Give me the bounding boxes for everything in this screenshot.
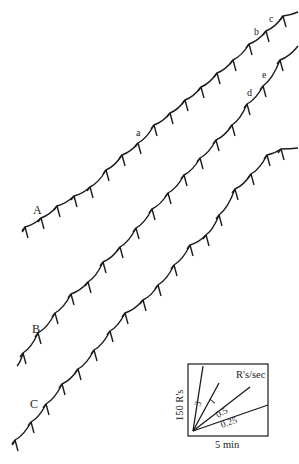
reinforcement-mark bbox=[138, 143, 141, 154]
reinforcement-mark bbox=[71, 294, 74, 305]
reinforcement-mark bbox=[184, 175, 187, 186]
reinforcement-mark bbox=[88, 282, 91, 293]
reinforcement-mark bbox=[174, 265, 177, 276]
reinforcement-mark bbox=[31, 422, 34, 433]
reinforcement-mark bbox=[267, 155, 270, 166]
reinforcement-mark bbox=[57, 206, 60, 217]
curve-annotation: b bbox=[254, 26, 259, 37]
reinforcement-mark-hook bbox=[117, 247, 120, 251]
reinforcement-mark bbox=[23, 353, 26, 364]
reinforcement-mark bbox=[46, 404, 49, 415]
rate-legend: R's/sec 5 min 150 R's 310.50.25 bbox=[174, 364, 268, 450]
reinforcement-mark bbox=[125, 313, 128, 324]
reinforcement-mark-hook bbox=[280, 16, 283, 20]
reinforcement-mark-hook bbox=[182, 100, 185, 104]
reinforcement-mark bbox=[25, 227, 28, 238]
reinforcement-mark bbox=[283, 16, 286, 27]
reinforcement-mark bbox=[232, 125, 235, 136]
reinforcement-mark bbox=[190, 245, 193, 256]
reinforcement-mark bbox=[251, 174, 254, 185]
reinforcement-mark bbox=[217, 73, 220, 84]
reinforcement-mark bbox=[170, 113, 173, 124]
reinforcement-mark bbox=[280, 60, 283, 71]
curve-annotation: e bbox=[262, 69, 267, 80]
rate-label: 1 bbox=[207, 396, 218, 406]
reinforcement-mark bbox=[90, 187, 93, 198]
reinforcement-mark-hook bbox=[214, 73, 217, 77]
reinforcement-mark bbox=[120, 247, 123, 258]
reinforcement-mark bbox=[136, 228, 139, 239]
legend-y-label: 150 R's bbox=[174, 390, 185, 421]
reinforcement-mark bbox=[201, 87, 204, 98]
reinforcement-mark bbox=[219, 215, 222, 226]
reinforcement-mark-hook bbox=[230, 60, 233, 64]
curve-annotation: c bbox=[269, 13, 274, 24]
reinforcement-mark bbox=[152, 209, 155, 220]
curve-line bbox=[22, 12, 298, 232]
reinforcement-mark bbox=[94, 350, 97, 361]
curve-annotation: d bbox=[247, 87, 252, 98]
curve-label: C bbox=[30, 397, 38, 411]
reinforcement-mark bbox=[247, 104, 250, 115]
reinforcement-mark bbox=[143, 300, 146, 311]
reinforcement-mark bbox=[103, 262, 106, 273]
reinforcement-mark bbox=[154, 125, 157, 136]
legend-x-label: 5 min bbox=[215, 439, 240, 450]
reinforcement-mark bbox=[233, 60, 236, 71]
reinforcement-mark bbox=[200, 158, 203, 169]
reinforcement-mark bbox=[55, 313, 58, 324]
reinforcement-mark bbox=[110, 331, 113, 342]
reinforcement-mark bbox=[62, 384, 65, 395]
reinforcement-mark bbox=[216, 140, 219, 151]
reinforcement-mark bbox=[74, 196, 77, 207]
reinforcement-mark bbox=[168, 193, 171, 204]
reinforcement-mark bbox=[249, 44, 252, 55]
cumulative-curves: AabcBdeC bbox=[12, 12, 298, 451]
reinforcement-mark bbox=[281, 149, 284, 160]
reinforcement-mark bbox=[185, 100, 188, 111]
reinforcement-mark-hook bbox=[198, 87, 201, 91]
reinforcement-mark bbox=[106, 170, 109, 181]
curve-label: B bbox=[32, 322, 40, 336]
reinforcement-mark bbox=[266, 31, 269, 42]
reinforcement-mark bbox=[41, 218, 44, 229]
curve-annotation: a bbox=[136, 127, 141, 138]
reinforcement-mark bbox=[206, 235, 209, 246]
curve-line bbox=[12, 148, 298, 445]
reinforcement-mark bbox=[158, 285, 161, 296]
curve-label: A bbox=[33, 203, 42, 217]
legend-title: R's/sec bbox=[236, 369, 266, 380]
reinforcement-mark bbox=[78, 369, 81, 380]
cumulative-record-figure: AabcBdeC R's/sec 5 min 150 R's 310.50.25 bbox=[0, 0, 299, 464]
reinforcement-mark bbox=[235, 189, 238, 200]
reinforcement-mark bbox=[263, 86, 266, 97]
reinforcement-mark bbox=[122, 155, 125, 166]
curve-c: C bbox=[12, 148, 298, 451]
reinforcement-mark bbox=[15, 440, 18, 451]
